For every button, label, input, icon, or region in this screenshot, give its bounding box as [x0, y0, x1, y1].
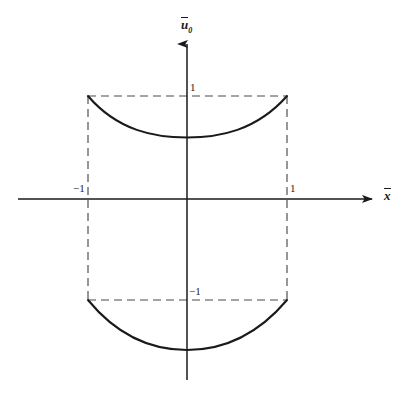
y-axis-label-subscript: 0: [188, 26, 192, 35]
x-axis-label: x: [384, 188, 391, 203]
y-tick-label-positive-one: 1: [190, 82, 196, 93]
x-tick-label-positive-one: 1: [290, 183, 296, 194]
figure-canvas: u0 x 1 −1 −1 1: [0, 0, 405, 397]
y-axis-label: u0: [181, 17, 192, 35]
y-tick-label-negative-one: −1: [189, 286, 201, 297]
x-tick-label-negative-one: −1: [73, 183, 85, 194]
plot-svg: [0, 0, 405, 397]
x-axis-label-text: x: [384, 188, 391, 203]
